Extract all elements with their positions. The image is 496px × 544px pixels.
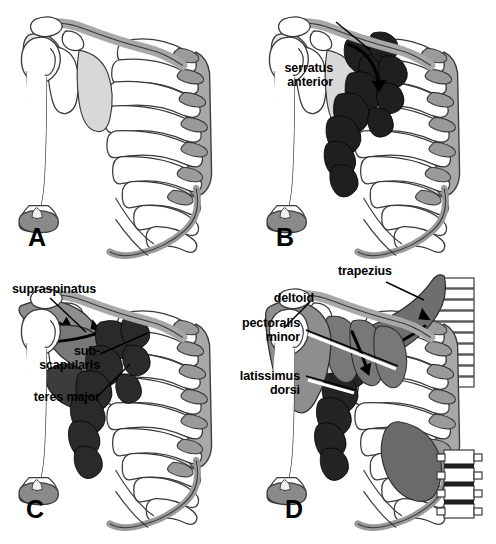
ribcage [105, 39, 212, 256]
panel-letter-d: D [285, 497, 303, 522]
humerus [19, 309, 60, 504]
label-pectoralis-minor: pectoralis minor [222, 317, 300, 344]
trapezius-leader-line [386, 282, 424, 300]
skeleton-group-b [267, 17, 460, 256]
skeleton-group-a [19, 17, 212, 256]
label-trapezius: trapezius [338, 265, 424, 279]
label-supraspinatus: supraspinatus [12, 283, 144, 297]
panel-letter-a: A [28, 225, 46, 250]
label-deltoid: deltoid [258, 292, 314, 306]
skeleton-group-d [266, 275, 460, 528]
label-teres-major: teres major [4, 391, 100, 405]
humerus [19, 37, 60, 232]
label-serratus-anterior: serratus anterior [255, 62, 333, 89]
label-subscapularis: sub- scapularis [8, 345, 100, 372]
panel-letter-b: B [276, 225, 294, 250]
anatomical-figure: A B C D serratus anterior supraspinatus … [0, 0, 496, 544]
label-latissimus-dorsi: latissimus dorsi [218, 370, 300, 397]
skeleton-group-c [19, 289, 212, 528]
panel-letter-c: C [26, 497, 44, 522]
